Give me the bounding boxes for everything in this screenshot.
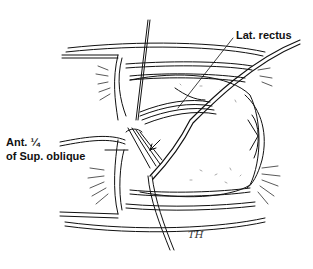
superior-oblique	[126, 128, 162, 168]
upper-retractor	[62, 43, 265, 82]
suture-lower	[148, 176, 174, 250]
label-lat-rectus: Lat. rectus	[236, 29, 292, 42]
arrow	[150, 140, 160, 150]
globe-outline	[130, 75, 259, 197]
label-ant-quarter: Ant. ¼	[6, 136, 40, 149]
lower-retractor	[60, 188, 265, 232]
label-sup-oblique: of Sup. oblique	[6, 150, 85, 163]
muscle-hook	[136, 20, 150, 120]
suture-left	[60, 136, 125, 146]
artist-signature: TH	[188, 229, 203, 240]
